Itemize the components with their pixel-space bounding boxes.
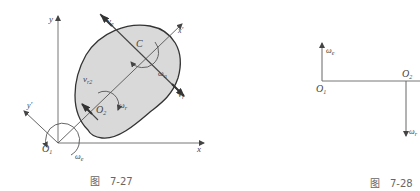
label-omega-e-right: ωe [326,46,335,56]
label-o2-right: O2 [402,68,412,80]
caption-7-27: 图7-27 [90,176,133,187]
label-v-r: vr [178,89,185,100]
label-y-prime: y' [26,101,33,110]
label-x-prime: x' [177,26,184,35]
label-c: C [136,38,143,49]
label-v-e: ve [107,16,114,27]
figure-7-28: ωe ωr O1 O2 图7-28 [316,43,420,189]
label-omega-e: ωe [75,152,84,162]
label-y: y [48,14,53,24]
label-omega-r-right: ωr [409,127,418,137]
figure-7-27: y x x' y' C ve vr vr2 ωa ωr ωe O2 O1 图7-… [24,14,204,187]
caption-7-28: 图7-28 [370,178,413,189]
label-o1-right: O1 [316,83,326,95]
diagram-canvas: y x x' y' C ve vr vr2 ωa ωr ωe O2 O1 图7-… [0,0,420,191]
label-x: x [196,144,201,154]
label-o1: O1 [42,143,52,155]
y-prime-axis [24,111,58,143]
